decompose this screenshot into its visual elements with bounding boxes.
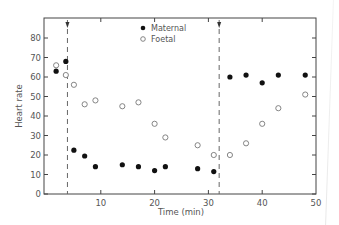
arrow-down-icon bbox=[65, 22, 69, 28]
foetal-point bbox=[195, 143, 200, 148]
x-tick-label: 40 bbox=[257, 198, 268, 208]
foetal-point bbox=[243, 141, 248, 146]
y-axis-label: Heart rate bbox=[14, 84, 24, 128]
legend-label: Foetal bbox=[151, 35, 175, 44]
foetal-point bbox=[260, 121, 265, 126]
maternal-point bbox=[71, 148, 76, 153]
y-tick-label: 30 bbox=[30, 131, 41, 141]
foetal-point bbox=[71, 82, 76, 87]
legend: MaternalFoetal bbox=[141, 24, 187, 44]
maternal-point bbox=[82, 153, 87, 158]
legend-open-circle-icon bbox=[141, 37, 146, 42]
maternal-point bbox=[152, 168, 157, 173]
foetal-point bbox=[54, 63, 59, 68]
y-tick-label: 20 bbox=[30, 150, 41, 160]
arrow-up-icon bbox=[217, 22, 221, 28]
maternal-point bbox=[243, 72, 248, 77]
foetal-point bbox=[163, 135, 168, 140]
x-axis-label: Time (min) bbox=[157, 207, 204, 217]
foetal-point bbox=[63, 72, 68, 77]
foetal-point bbox=[93, 98, 98, 103]
data-points bbox=[54, 59, 308, 174]
foetal-point bbox=[120, 104, 125, 109]
foetal-point bbox=[276, 106, 281, 111]
maternal-point bbox=[163, 164, 168, 169]
legend-label: Maternal bbox=[151, 24, 186, 33]
y-tick-label: 50 bbox=[30, 92, 41, 102]
maternal-point bbox=[136, 164, 141, 169]
maternal-point bbox=[195, 166, 200, 171]
maternal-point bbox=[93, 164, 98, 169]
x-tick-label: 10 bbox=[95, 198, 106, 208]
maternal-point bbox=[63, 59, 68, 64]
foetal-point bbox=[211, 152, 216, 157]
y-tick-label: 70 bbox=[30, 53, 41, 63]
y-tick-label: 80 bbox=[30, 33, 41, 43]
heart-rate-chart: 010203040506070801020304050 MaternalFoet… bbox=[0, 0, 339, 225]
foetal-point bbox=[82, 102, 87, 107]
maternal-point bbox=[211, 169, 216, 174]
legend-filled-circle-icon bbox=[141, 26, 146, 31]
maternal-point bbox=[303, 72, 308, 77]
x-tick-label: 30 bbox=[203, 198, 214, 208]
maternal-point bbox=[227, 74, 232, 79]
foetal-point bbox=[227, 152, 232, 157]
x-tick-label: 50 bbox=[311, 198, 322, 208]
foetal-point bbox=[303, 92, 308, 97]
maternal-point bbox=[54, 69, 59, 74]
maternal-point bbox=[260, 80, 265, 85]
y-tick-label: 60 bbox=[30, 72, 41, 82]
foetal-point bbox=[152, 121, 157, 126]
foetal-point bbox=[136, 100, 141, 105]
maternal-point bbox=[276, 72, 281, 77]
y-tick-label: 40 bbox=[30, 111, 41, 121]
y-tick-label: 10 bbox=[30, 170, 41, 180]
plot-axes: 010203040506070801020304050 bbox=[30, 18, 321, 208]
maternal-point bbox=[120, 162, 125, 167]
y-tick-label: 0 bbox=[36, 189, 41, 199]
